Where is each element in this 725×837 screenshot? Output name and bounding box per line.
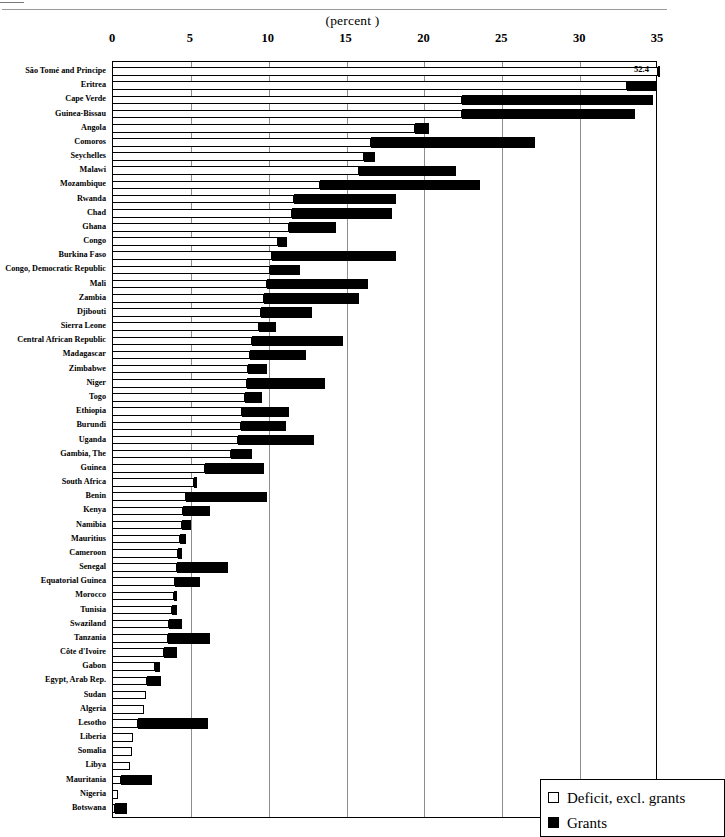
bar-row — [113, 292, 656, 306]
bar-deficit — [113, 563, 177, 572]
bar-deficit — [113, 648, 164, 657]
country-label: Niger — [0, 378, 106, 388]
bar-deficit — [113, 393, 245, 402]
bar-deficit — [113, 124, 415, 133]
bar-row — [113, 603, 656, 617]
value-annotation: 52.4 — [634, 64, 649, 74]
bar-grants — [186, 492, 267, 502]
country-label: Sierra Leone — [0, 321, 106, 331]
bar-deficit — [113, 662, 155, 671]
legend-label-deficit: Deficit, excl. grants — [567, 790, 685, 806]
bar-grants — [294, 194, 397, 204]
country-label: Burkina Faso — [0, 250, 106, 260]
country-label: Liberia — [0, 732, 106, 742]
bar-grants — [264, 293, 359, 303]
bar-row — [113, 93, 656, 107]
bar-row — [113, 419, 656, 433]
bar-deficit — [113, 634, 168, 643]
bar-rows — [113, 62, 656, 817]
bar-deficit — [113, 790, 118, 799]
bar-grants — [289, 222, 336, 232]
bar-deficit — [113, 280, 267, 289]
country-label: Gambia, The — [0, 449, 106, 459]
bar-grants — [172, 605, 177, 615]
bar-deficit — [113, 209, 292, 218]
bar-row — [113, 150, 656, 164]
bar-deficit — [113, 677, 147, 686]
bar-deficit — [113, 407, 242, 416]
bar-row — [113, 646, 656, 660]
bar-deficit — [113, 606, 172, 615]
bar-grants — [178, 548, 181, 558]
bar-grants — [364, 152, 375, 162]
bar-row — [113, 717, 656, 731]
country-label: Mozambique — [0, 179, 106, 189]
bar-row — [113, 377, 656, 391]
bar-row — [113, 462, 656, 476]
bar-row — [113, 504, 656, 518]
bar-deficit — [113, 266, 270, 275]
bar-grants — [270, 265, 300, 275]
x-tick-10: 10 — [261, 31, 274, 46]
country-label: Ghana — [0, 222, 106, 232]
bar-deficit — [113, 521, 182, 530]
country-label: Somalia — [0, 746, 106, 756]
bar-row — [113, 618, 656, 632]
bar-deficit — [113, 776, 121, 785]
bar-deficit — [113, 322, 259, 331]
bar-grants — [180, 534, 186, 544]
bar-row — [113, 348, 656, 362]
page-top-hairline — [2, 9, 667, 10]
bar-deficit — [113, 166, 359, 175]
bar-deficit — [113, 507, 183, 516]
country-label: Guinea-Bissau — [0, 109, 106, 119]
bar-row — [113, 221, 656, 235]
country-label: Nigeria — [0, 789, 106, 799]
bar-deficit — [113, 181, 320, 190]
bar-grants — [658, 66, 660, 76]
bar-row — [113, 632, 656, 646]
bar-grants — [278, 237, 287, 247]
country-label: Benin — [0, 491, 106, 501]
country-label: Central African Republic — [0, 335, 106, 345]
axis-unit-title-text: (percent ) — [289, 13, 379, 28]
bar-row — [113, 207, 656, 221]
x-tick-25: 25 — [495, 31, 508, 46]
country-label: Seychelles — [0, 151, 106, 161]
bar-row — [113, 306, 656, 320]
country-label: Congo, Democratic Republic — [0, 264, 106, 274]
country-label: Libya — [0, 760, 106, 770]
bar-row — [113, 688, 656, 702]
country-label: Chad — [0, 208, 106, 218]
x-tick-30: 30 — [573, 31, 586, 46]
bar-deficit — [113, 592, 174, 601]
country-label: Burundi — [0, 420, 106, 430]
bar-deficit — [113, 337, 252, 346]
bar-grants — [155, 662, 160, 672]
bar-row — [113, 433, 656, 447]
country-label: Mauritius — [0, 534, 106, 544]
country-label: Rwanda — [0, 194, 106, 204]
bar-row — [113, 703, 656, 717]
bar-deficit — [113, 450, 231, 459]
bar-row — [113, 178, 656, 192]
bar-grants — [462, 109, 635, 119]
bar-grants — [115, 803, 127, 813]
legend-swatch-grants-icon — [548, 817, 559, 828]
country-label: Congo — [0, 236, 106, 246]
bar-row — [113, 108, 656, 122]
bar-grants — [252, 336, 344, 346]
bar-grants — [183, 506, 209, 516]
bar-grants — [242, 407, 289, 417]
bar-grants — [259, 322, 276, 332]
bar-grants — [182, 520, 191, 530]
country-label: Ethiopia — [0, 406, 106, 416]
bar-grants — [194, 477, 197, 487]
bar-row — [113, 79, 656, 93]
page-top-hairline-left — [0, 2, 24, 3]
country-label: Sudan — [0, 690, 106, 700]
bar-row — [113, 589, 656, 603]
country-label: Tunisia — [0, 605, 106, 615]
country-label: Comoros — [0, 137, 106, 147]
bar-row — [113, 164, 656, 178]
